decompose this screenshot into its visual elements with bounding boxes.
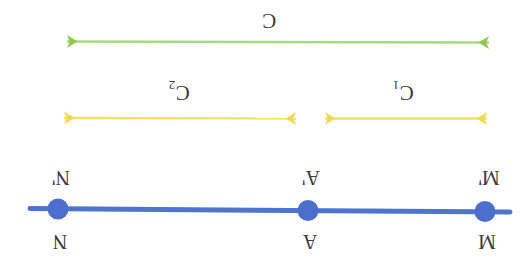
label-curve-c1-subscript: 1 xyxy=(392,78,399,93)
label-point-a: A xyxy=(296,232,324,252)
label-curve-c1: C1 xyxy=(386,79,420,103)
label-point-a-prime: A' xyxy=(294,168,328,188)
diagram-canvas xyxy=(0,0,528,270)
label-point-n-prime: N' xyxy=(44,168,78,188)
point-marker-M xyxy=(475,201,496,222)
yellow-arrow-c2-line xyxy=(64,118,296,119)
interval-diagram: C C2 C1 N' A' M' N A M xyxy=(0,0,528,270)
number-line-axis xyxy=(30,209,510,213)
label-point-n: N xyxy=(46,232,74,252)
green-arrow-line xyxy=(67,42,489,43)
label-curve-c: C xyxy=(256,10,282,31)
label-point-m: M xyxy=(472,232,502,252)
label-point-m-prime: M' xyxy=(471,168,507,188)
number-line xyxy=(30,199,510,223)
label-curve-c2-subscript: 2 xyxy=(168,78,175,93)
label-curve-c2: C2 xyxy=(162,79,196,103)
point-marker-A xyxy=(298,200,319,221)
point-marker-N xyxy=(48,199,69,220)
label-curve-c1-base: C xyxy=(399,81,414,105)
yellow-arrow-C2 xyxy=(64,118,296,119)
label-curve-c2-base: C xyxy=(175,81,190,105)
green-arrow-C xyxy=(67,42,489,43)
